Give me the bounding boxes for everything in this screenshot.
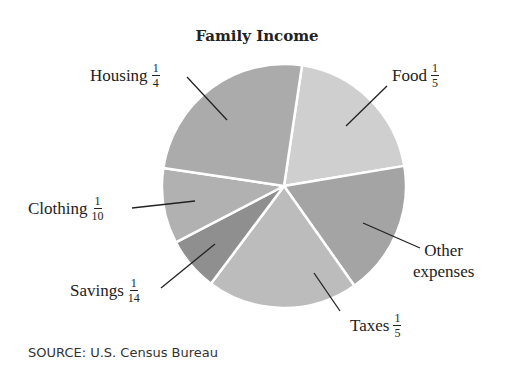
- fraction: 15: [431, 62, 439, 89]
- label-food: Food 15: [392, 62, 439, 89]
- fraction: 15: [393, 312, 401, 339]
- label-text: Food: [392, 67, 427, 84]
- label-line-2: expenses: [413, 261, 474, 282]
- fraction: 14: [152, 62, 160, 89]
- fraction: 114: [128, 277, 140, 304]
- label-text: Savings: [70, 282, 124, 299]
- numerator: 1: [94, 195, 102, 209]
- denominator: 14: [128, 291, 140, 304]
- numerator: 1: [393, 312, 401, 326]
- source-note: SOURCE: U.S. Census Bureau: [28, 345, 218, 360]
- pie-chart: [0, 0, 514, 380]
- label-text: Clothing: [28, 200, 88, 217]
- pie-slices: [162, 64, 406, 308]
- label-text: Taxes: [350, 317, 389, 334]
- label-other-expenses: Other expenses: [413, 240, 474, 283]
- label-text: Housing: [90, 67, 148, 84]
- numerator: 1: [431, 62, 439, 76]
- label-line-1: Other: [424, 240, 463, 261]
- label-housing: Housing 14: [90, 62, 160, 89]
- denominator: 5: [394, 326, 400, 339]
- label-savings: Savings 114: [70, 277, 140, 304]
- denominator: 10: [92, 209, 104, 222]
- denominator: 5: [432, 76, 438, 89]
- numerator: 1: [152, 62, 160, 76]
- label-clothing: Clothing 110: [28, 195, 104, 222]
- label-taxes: Taxes 15: [350, 312, 401, 339]
- slice-housing: [163, 64, 302, 186]
- numerator: 1: [130, 277, 138, 291]
- fraction: 110: [92, 195, 104, 222]
- denominator: 4: [153, 76, 159, 89]
